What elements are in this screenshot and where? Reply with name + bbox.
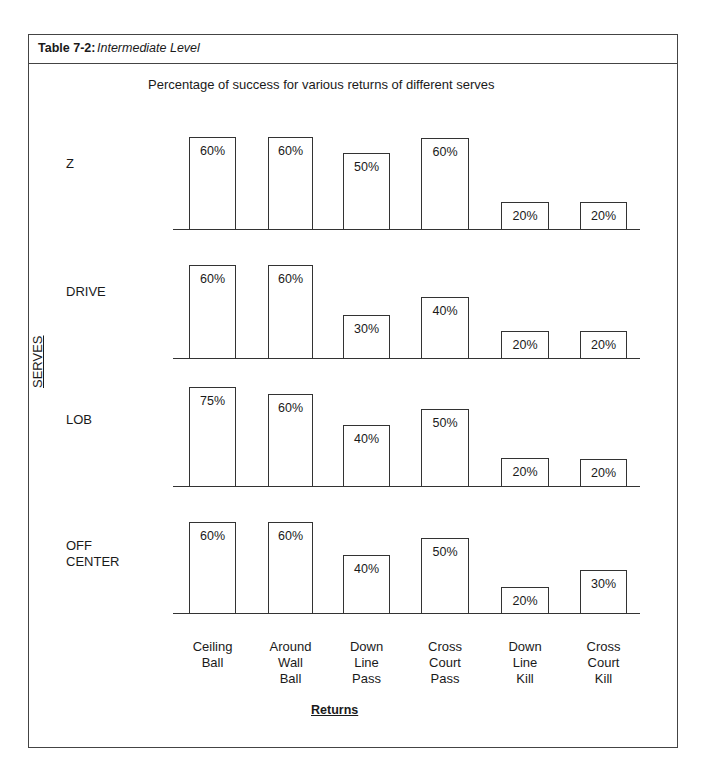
bar: 30% [580, 570, 627, 613]
bar-value-label: 60% [269, 401, 312, 415]
bar-value-label: 40% [344, 562, 389, 576]
bar-value-label: 20% [502, 338, 548, 352]
bar-value-label: 50% [344, 160, 389, 174]
bar: 40% [343, 555, 390, 613]
table-number: Table 7-2: [38, 41, 95, 55]
bar: 20% [501, 458, 549, 486]
x-category-label: Around Wall Ball [251, 639, 331, 687]
x-category-label: Ceiling Ball [173, 639, 253, 671]
bar: 60% [189, 137, 236, 229]
bar-value-label: 60% [269, 272, 312, 286]
panel-baseline [173, 486, 640, 487]
x-category-label: Down Line Pass [327, 639, 407, 687]
bar: 60% [421, 138, 469, 229]
panel-baseline [173, 229, 640, 230]
bar: 60% [268, 265, 313, 358]
bar: 50% [343, 153, 390, 229]
panel-baseline [173, 613, 640, 614]
bar-value-label: 20% [502, 465, 548, 479]
serve-label: DRIVE [66, 284, 106, 300]
bar-value-label: 40% [422, 304, 468, 318]
chart-subtitle: Percentage of success for various return… [148, 77, 495, 92]
bar-value-label: 20% [581, 338, 626, 352]
bar-value-label: 60% [190, 272, 235, 286]
x-axis-title: Returns [311, 703, 358, 717]
x-category-label: Cross Court Pass [405, 639, 485, 687]
bar-value-label: 60% [190, 144, 235, 158]
x-category-label: Cross Court Kill [564, 639, 644, 687]
bar-value-label: 20% [581, 466, 626, 480]
bar-value-label: 30% [344, 322, 389, 336]
bar: 20% [501, 202, 549, 229]
bar: 60% [268, 137, 313, 229]
bar-value-label: 30% [581, 577, 626, 591]
bar: 60% [189, 522, 236, 613]
bar-value-label: 20% [581, 209, 626, 223]
bar-value-label: 20% [502, 209, 548, 223]
bar: 75% [189, 387, 236, 486]
bar: 50% [421, 409, 469, 486]
bar-value-label: 50% [422, 545, 468, 559]
bar-value-label: 60% [190, 529, 235, 543]
panel-baseline [173, 358, 640, 359]
bar-value-label: 60% [422, 145, 468, 159]
bar-value-label: 60% [269, 529, 312, 543]
bar: 20% [501, 331, 549, 358]
bar-value-label: 20% [502, 594, 548, 608]
bar: 60% [268, 522, 313, 613]
bar-value-label: 60% [269, 144, 312, 158]
bar-value-label: 50% [422, 416, 468, 430]
serve-label: LOB [66, 412, 92, 428]
bar: 20% [580, 331, 627, 358]
y-axis-title: SERVES [30, 335, 45, 388]
bar: 20% [580, 459, 627, 486]
header-divider [28, 63, 678, 64]
bar: 40% [421, 297, 469, 358]
bar: 60% [189, 265, 236, 358]
bar: 20% [580, 202, 627, 229]
serve-label: OFF CENTER [66, 538, 119, 570]
bar: 20% [501, 587, 549, 613]
bar-value-label: 40% [344, 432, 389, 446]
bar: 60% [268, 394, 313, 486]
bar: 50% [421, 538, 469, 613]
table-name: Intermediate Level [97, 41, 200, 55]
x-category-label: Down Line Kill [485, 639, 565, 687]
bar: 30% [343, 315, 390, 358]
bar: 40% [343, 425, 390, 486]
serve-label: Z [66, 156, 74, 172]
bar-value-label: 75% [190, 394, 235, 408]
